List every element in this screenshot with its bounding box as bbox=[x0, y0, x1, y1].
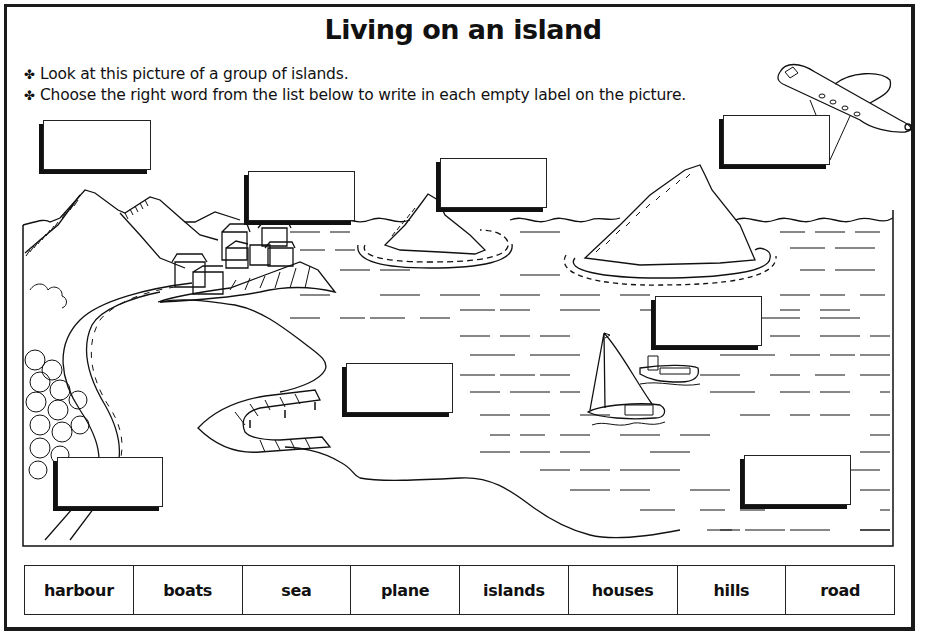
harbour-jetty-drawing bbox=[198, 390, 330, 452]
word-bank: harbour boats sea plane islands houses h… bbox=[24, 565, 895, 615]
trees-drawing bbox=[25, 284, 89, 479]
motorboat-drawing bbox=[640, 356, 700, 385]
word-boats: boats bbox=[134, 566, 243, 614]
word-road: road bbox=[786, 566, 894, 614]
word-plane: plane bbox=[351, 566, 460, 614]
word-sea: sea bbox=[243, 566, 352, 614]
label-box-houses[interactable] bbox=[248, 171, 355, 221]
label-box-boats[interactable] bbox=[744, 455, 851, 505]
island-picture bbox=[0, 0, 926, 641]
label-box-islands[interactable] bbox=[440, 158, 547, 208]
word-hills: hills bbox=[678, 566, 787, 614]
label-box-hills[interactable] bbox=[43, 120, 151, 170]
word-harbour: harbour bbox=[25, 566, 134, 614]
label-box-road[interactable] bbox=[57, 457, 163, 507]
hills-drawing bbox=[23, 190, 240, 268]
label-box-sea[interactable] bbox=[655, 296, 762, 346]
label-box-plane[interactable] bbox=[723, 115, 830, 165]
horizon-waves bbox=[330, 218, 893, 222]
island-right-drawing bbox=[564, 165, 776, 285]
coastline bbox=[160, 300, 680, 538]
word-islands: islands bbox=[460, 566, 569, 614]
label-box-harbour[interactable] bbox=[346, 363, 453, 413]
word-houses: houses bbox=[569, 566, 678, 614]
